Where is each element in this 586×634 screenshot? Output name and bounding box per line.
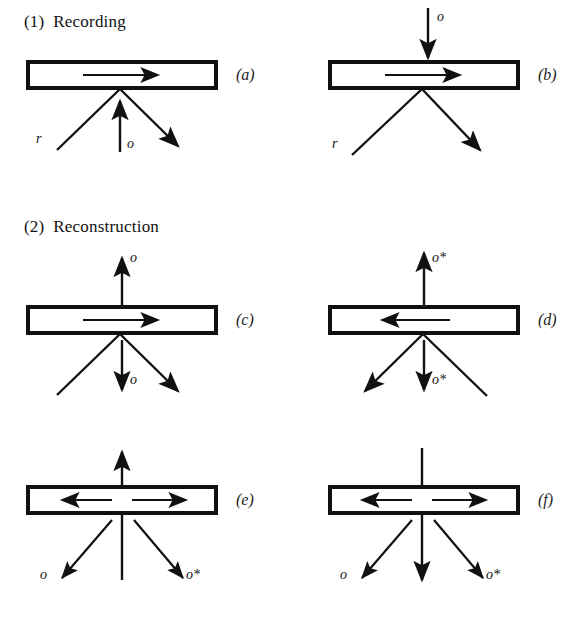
panel-f-plate bbox=[330, 487, 518, 513]
panel-c bbox=[28, 258, 216, 395]
panel-b-diffracted-ray bbox=[422, 89, 480, 150]
panel-f bbox=[330, 448, 518, 580]
panel-label-a: (a) bbox=[236, 66, 255, 84]
panel-e-label-conjugate: o* bbox=[186, 567, 200, 583]
panel-f-label-object: o bbox=[340, 567, 347, 583]
panel-a-label-object: o bbox=[127, 136, 134, 152]
panel-b-reference-ray bbox=[352, 89, 422, 155]
panel-c-label-object-down: o bbox=[130, 372, 137, 388]
panel-e-object-ray bbox=[62, 520, 112, 578]
panel-c-left-ray bbox=[57, 334, 120, 395]
panel-label-d: (d) bbox=[538, 311, 557, 329]
panel-d bbox=[330, 253, 518, 396]
panel-e-conjugate-ray bbox=[134, 520, 183, 578]
panel-label-f: (f) bbox=[538, 491, 553, 509]
panel-label-b: (b) bbox=[538, 66, 557, 84]
panel-f-label-conjugate: o* bbox=[486, 567, 500, 583]
panel-d-label-conjugate-down: o* bbox=[432, 372, 446, 388]
panel-d-label-conjugate-up: o* bbox=[432, 250, 446, 266]
panel-label-e: (e) bbox=[236, 491, 254, 509]
panel-b bbox=[330, 8, 518, 155]
panel-label-c: (c) bbox=[236, 311, 254, 329]
holography-figure: (1) Recording (2) Reconstruction bbox=[0, 0, 586, 634]
panel-b-label-object: o bbox=[437, 9, 444, 25]
panel-f-object-ray bbox=[362, 520, 412, 578]
panel-c-right-ray bbox=[120, 334, 178, 391]
panel-a-reference-ray bbox=[57, 89, 120, 150]
panel-a bbox=[28, 62, 216, 152]
panel-f-conjugate-ray bbox=[434, 520, 483, 578]
panel-a-label-reference: r bbox=[36, 131, 41, 147]
panel-b-label-reference: r bbox=[332, 136, 337, 152]
section-heading-reconstruction: (2) Reconstruction bbox=[24, 217, 159, 237]
panel-e-label-object: o bbox=[40, 567, 47, 583]
panel-c-label-object-up: o bbox=[130, 250, 137, 266]
diagram-canvas bbox=[0, 0, 586, 634]
panel-d-left-ray bbox=[365, 334, 423, 391]
panel-e-plate bbox=[28, 487, 216, 513]
section-heading-recording: (1) Recording bbox=[24, 12, 126, 32]
panel-e bbox=[28, 452, 216, 580]
